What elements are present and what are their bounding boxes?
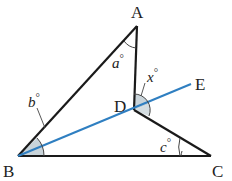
angle-b-label: b° bbox=[28, 91, 40, 110]
angle-a-label: a° bbox=[112, 52, 124, 71]
angle-a-arc bbox=[124, 41, 136, 48]
label-A: A bbox=[131, 3, 144, 22]
label-B: B bbox=[3, 162, 14, 181]
segment-DC bbox=[134, 110, 211, 156]
label-C: C bbox=[212, 162, 223, 181]
angle-x-leader bbox=[141, 83, 145, 96]
angle-b-leader bbox=[37, 108, 45, 128]
label-E: E bbox=[195, 75, 205, 94]
label-D: D bbox=[114, 97, 126, 116]
angle-c-label: c° bbox=[160, 136, 171, 155]
angle-x-label: x° bbox=[146, 66, 158, 85]
angle-c-arc-outer bbox=[179, 138, 180, 156]
geometry-diagram: A B C D E a° b° c° x° bbox=[0, 0, 232, 181]
